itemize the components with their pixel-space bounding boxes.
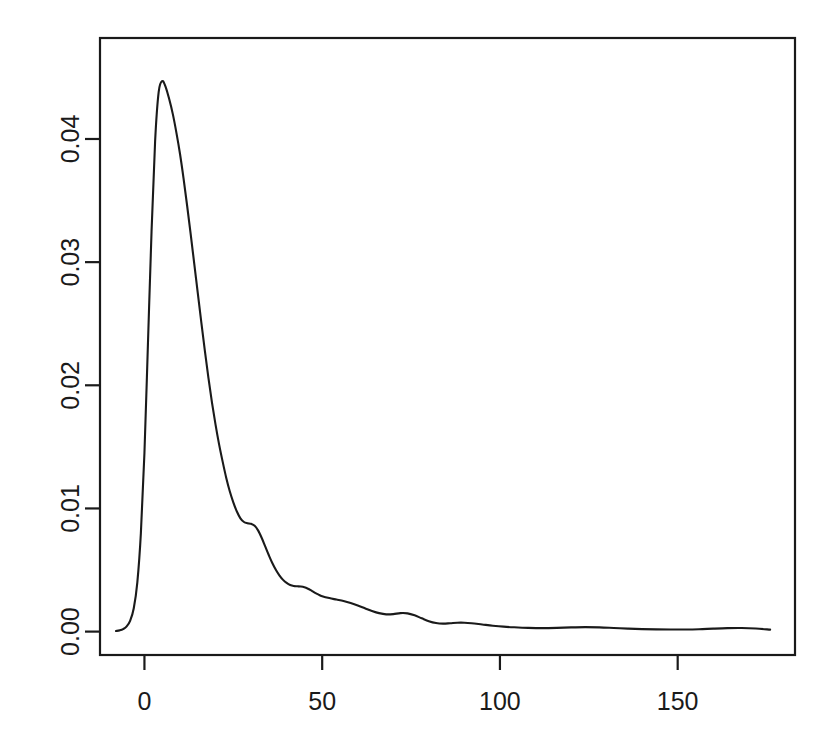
figure-background bbox=[0, 0, 832, 750]
x-tick-label: 150 bbox=[657, 687, 699, 715]
density-plot-figure: 050100150 0.000.010.020.030.04 bbox=[0, 0, 832, 750]
x-tick-label: 100 bbox=[479, 687, 521, 715]
y-tick-label: 0.04 bbox=[56, 115, 84, 164]
y-tick-label: 0.03 bbox=[56, 238, 84, 287]
y-tick-label: 0.02 bbox=[56, 361, 84, 410]
x-tick-label: 0 bbox=[137, 687, 151, 715]
plot-canvas: 050100150 0.000.010.020.030.04 bbox=[0, 0, 832, 750]
x-tick-label: 50 bbox=[308, 687, 336, 715]
y-tick-label: 0.01 bbox=[56, 484, 84, 533]
y-tick-label: 0.00 bbox=[56, 607, 84, 656]
